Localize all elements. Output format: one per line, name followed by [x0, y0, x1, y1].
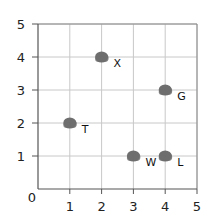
y-tick-label: 2 — [17, 116, 25, 131]
data-point-t: T — [63, 118, 89, 137]
x-tick-label: 5 — [193, 199, 201, 214]
scatter-chart: 12345123450 XGTWL — [0, 0, 213, 224]
point-label: X — [114, 57, 122, 70]
y-tick-label: 4 — [17, 50, 25, 65]
x-tick-label: 1 — [66, 199, 74, 214]
data-points: XGTWL — [63, 52, 185, 170]
origin-label: 0 — [28, 190, 36, 205]
tick-labels: 12345123450 — [17, 17, 201, 214]
point-label: T — [81, 123, 89, 136]
data-point-g: G — [159, 85, 186, 104]
data-point-l: L — [159, 151, 185, 170]
point-label: G — [177, 90, 186, 103]
point-label: L — [177, 156, 184, 169]
data-point-x: X — [95, 52, 122, 71]
y-tick-label: 5 — [17, 17, 25, 32]
grid-lines — [38, 24, 197, 189]
x-tick-label: 4 — [161, 199, 169, 214]
axes — [32, 24, 197, 194]
y-tick-label: 3 — [17, 83, 25, 98]
data-point-w: W — [127, 151, 157, 170]
x-tick-label: 3 — [129, 199, 137, 214]
point-label: W — [145, 156, 156, 169]
y-tick-label: 1 — [17, 149, 25, 164]
x-tick-label: 2 — [97, 199, 105, 214]
